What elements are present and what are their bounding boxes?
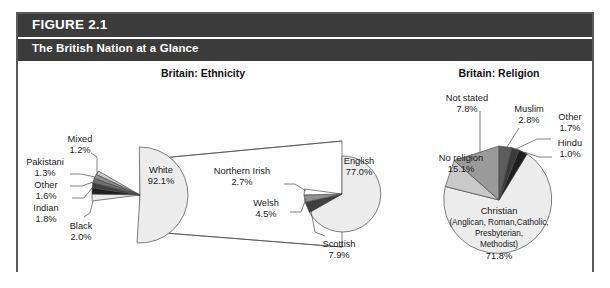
- religion-label-other-name: Other: [558, 112, 581, 122]
- figure-number-label: FIGURE 2.1: [32, 17, 108, 32]
- ethnicity-label-mixed-name: Mixed: [68, 134, 93, 144]
- ethnicity-slice-white-cap: [92, 194, 140, 201]
- religion-label-not-stated-name: Not stated: [446, 93, 488, 103]
- breakout-label-welsh-pct: 4.5%: [255, 209, 276, 219]
- religion-label-muslim-pct: 2.8%: [518, 115, 539, 125]
- religion-label-no-religion-pct: 15.1%: [448, 164, 474, 174]
- ethnicity-label-pakistani-pct: 1.3%: [34, 168, 55, 178]
- ethnicity-label-black-pct: 2.0%: [70, 232, 91, 242]
- religion-label-christian-pct: 71.8%: [486, 251, 512, 261]
- religion-label-hindu-name: Hindu: [558, 138, 582, 148]
- ethnicity-label-mixed-pct: 1.2%: [69, 145, 90, 155]
- figure-caption-bar: The British Nation at a Glance: [18, 39, 592, 61]
- ethnicity-label-black-name: Black: [70, 221, 93, 231]
- religion-label-no-religion-name: No religion: [439, 153, 483, 163]
- figure-frame: FIGURE 2.1 The British Nation at a Glanc…: [16, 12, 594, 272]
- religion-label-hindu-pct: 1.0%: [559, 149, 580, 159]
- ethnicity-pie: [92, 147, 188, 243]
- religion-label-not-stated-pct: 7.8%: [456, 104, 477, 114]
- charts-canvas: Britain: Ethnicity Britain: Religion: [18, 61, 592, 272]
- religion-label-muslim-name: Muslim: [514, 104, 544, 114]
- ethnicity-label-pakistani-name: Pakistani: [26, 157, 64, 167]
- religion-label-christian-detail-1: (Anglican, Roman,Catholic,: [449, 218, 548, 227]
- breakout-label-english-name: English: [344, 156, 375, 166]
- ethnicity-label-other-pct: 1.6%: [35, 191, 56, 201]
- ethnicity-label-white-pct: 92.1%: [148, 176, 174, 186]
- breakout-label-northern-irish-pct: 2.7%: [231, 177, 252, 187]
- figure-root: FIGURE 2.1 The British Nation at a Glanc…: [0, 0, 610, 288]
- breakout-label-northern-irish-name: Northern Irish: [214, 166, 270, 176]
- breakout-label-scottish-pct: 7.9%: [328, 250, 349, 260]
- breakout-label-english-pct: 77.0%: [346, 167, 372, 177]
- religion-label-christian-detail-3: Methodist): [480, 240, 518, 249]
- ethnicity-chart-title: Britain: Ethnicity: [161, 67, 245, 79]
- breakout-label-welsh-name: Welsh: [253, 198, 279, 208]
- ethnicity-label-indian-pct: 1.8%: [35, 214, 56, 224]
- breakout-label-scottish-name: Scottish: [322, 239, 355, 249]
- ethnicity-label-indian-name: Indian: [33, 203, 58, 213]
- ethnicity-label-other-name: Other: [34, 180, 57, 190]
- religion-chart-title: Britain: Religion: [458, 67, 539, 79]
- figure-caption-label: The British Nation at a Glance: [32, 42, 199, 54]
- charts-svg: Britain: Ethnicity Britain: Religion: [18, 61, 592, 272]
- figure-number-bar: FIGURE 2.1: [18, 14, 592, 37]
- ethnicity-label-white-name: White: [149, 165, 173, 175]
- religion-label-christian-name: Christian: [481, 206, 518, 216]
- religion-label-other-pct: 1.7%: [559, 123, 580, 133]
- religion-label-christian-detail-2: Presbyterian,: [475, 229, 523, 238]
